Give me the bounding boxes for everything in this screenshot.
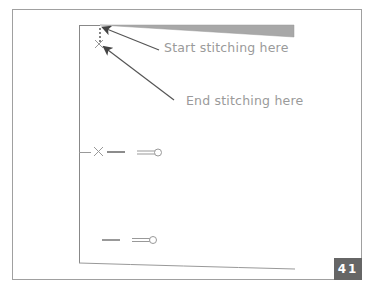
page-number: 41 [338, 262, 359, 276]
pin-icon [137, 149, 162, 156]
fabric-panel [79, 25, 295, 269]
stitch-x-icon [95, 40, 103, 48]
pin-icon [132, 237, 157, 244]
stitch-x-icon [94, 147, 103, 156]
page-number-badge: 41 [334, 258, 362, 280]
fabric-fold-wedge [100, 25, 294, 37]
lower-marker-row [102, 237, 157, 244]
start-stitching-label: Start stitching here [164, 40, 289, 55]
start-arrow-icon [103, 28, 159, 51]
end-stitching-label: End stitching here [186, 93, 303, 108]
side-marker-row [79, 147, 162, 156]
